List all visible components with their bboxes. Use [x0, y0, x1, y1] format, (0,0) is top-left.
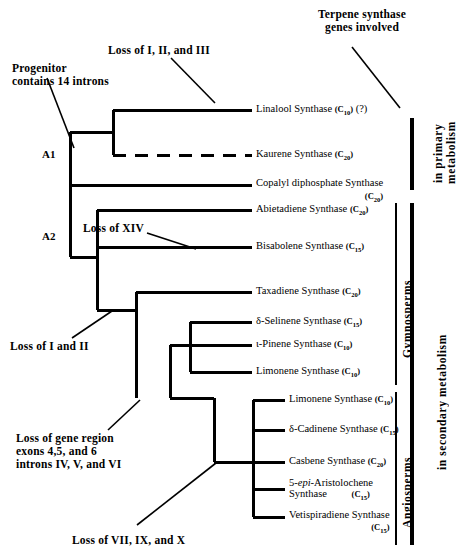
leaf-label-aristolochene: 5-epi-Aristolochene Synthase (C15) — [289, 478, 373, 503]
leaf-carbon: (C20) — [350, 204, 368, 214]
right-header: Terpene synthase genes involved — [296, 8, 428, 34]
leader-loss-i-ii — [72, 311, 112, 338]
leader-loss-gene-region — [108, 400, 140, 430]
bracket-label-secondary-metabolism: in secondary metabolism — [436, 310, 448, 470]
bracket-label-gymnosperms: Gymnosperms — [401, 238, 413, 358]
leaf-carbon: (C15) — [344, 316, 362, 326]
leaf-name-line2: Synthase — [289, 488, 327, 499]
leaf-label-casbene: Casbene Synthase (C20) — [289, 455, 386, 470]
annotation-loss-gene-region: Loss of gene region exons 4,5, and 6 int… — [16, 432, 121, 471]
node-label-a1: A1 — [42, 148, 55, 160]
bracket-label-primary-line1: in primary — [432, 123, 444, 182]
leaf-name: Bisabolene Synthase — [256, 240, 343, 251]
leaf-label-a-pinene: ι-Pinene Synthase (C10) — [256, 338, 352, 353]
annotation-progenitor: Progenitor contains 14 introns — [12, 62, 109, 88]
leaf-name: Limonene Synthase — [256, 365, 339, 376]
annotation-loss-xiv: Loss of XIV — [83, 222, 144, 235]
leaf-carbon: (C15) — [371, 522, 389, 532]
leaf-name: Vetispiradiene Synthase — [289, 509, 390, 520]
leader-loss-i-ii-iii — [171, 58, 215, 103]
leaf-name: Copalyl diphosphate Synthase — [256, 177, 383, 188]
leaf-name: δ-Selinene Synthase — [256, 315, 341, 326]
leaf-carbon: (C15) — [346, 241, 364, 251]
leaf-carbon: (C20) — [365, 191, 383, 201]
leaf-name: Linalool Synthase — [256, 103, 332, 114]
leaf-name-aristolochene: 5-epi-Aristolochene — [289, 477, 373, 488]
annotation-loss-gene-region-line2: exons 4,5, and 6 — [16, 445, 97, 457]
leaf-label-vetispiradiene: Vetispiradiene Synthase (C15) — [289, 510, 390, 536]
leaf-carbon: (C10) — [334, 339, 352, 349]
leaf-label-linalool: Linalool Synthase (C10) (?) — [256, 103, 367, 118]
leaf-carbon: (C15) — [380, 424, 398, 434]
leaf-carbon: (C10) — [375, 394, 393, 404]
diagram-canvas: Terpene synthase genes involved Progenit… — [0, 0, 472, 560]
leader-loss-vii-ix-x — [137, 463, 216, 525]
bracket-label-angiosperms: Angiosperms — [401, 408, 413, 528]
leader-progenitor — [47, 78, 74, 148]
leaf-label-copalyl: Copalyl diphosphate Synthase (C20) — [256, 178, 383, 205]
bracket-label-primary-metabolism: in primary metabolism — [432, 98, 458, 208]
leaf-carbon: (C10) — [342, 366, 360, 376]
leaf-carbon: (C10) — [335, 104, 353, 114]
leaf-carbon: (C15) — [330, 489, 370, 499]
leaf-carbon: (C20) — [368, 456, 386, 466]
leader-terpene-header — [352, 47, 400, 108]
leaf-label-taxadiene: Taxadiene Synthase (C20) — [256, 285, 360, 300]
leaf-name-italic-part: epi — [298, 477, 311, 488]
leaf-carbon: (C20) — [342, 286, 360, 296]
leaf-name: Abietadiene Synthase — [256, 203, 347, 214]
bracket-label-primary-line2: metabolism — [445, 122, 457, 185]
leaf-name: Limonene Synthase — [289, 393, 372, 404]
leaf-name: Taxadiene Synthase — [256, 285, 340, 296]
annotation-loss-i-ii: Loss of I and II — [10, 340, 89, 353]
leaf-carbon: (C20) — [335, 149, 353, 159]
right-header-line2: genes involved — [325, 21, 399, 33]
leaf-label-kaurene: Kaurene Synthase (C20) — [256, 148, 353, 163]
leaf-suffix: (?) — [356, 103, 368, 114]
annotation-loss-gene-region-line1: Loss of gene region — [16, 432, 114, 444]
annotation-progenitor-line2: contains 14 introns — [12, 75, 109, 87]
leaf-label-d-cadinene: δ-Cadinene Synthase (C15) — [289, 423, 399, 438]
annotation-loss-i-ii-iii: Loss of I, II, and III — [108, 44, 210, 57]
leaf-name: Kaurene Synthase — [256, 148, 332, 159]
leaf-name: ι-Pinene Synthase — [256, 338, 331, 349]
right-header-line1: Terpene synthase — [318, 8, 406, 20]
leaf-label-limonene-gymno: Limonene Synthase (C10) — [256, 365, 360, 380]
leaf-label-abietadiene: Abietadiene Synthase (C20) — [256, 203, 368, 218]
leaf-label-limonene-angio: Limonene Synthase (C10) — [289, 393, 393, 408]
leaf-name: δ-Cadinene Synthase — [289, 423, 378, 434]
leaf-label-bisabolene: Bisabolene Synthase (C15) — [256, 240, 364, 255]
leaf-label-d-selinene: δ-Selinene Synthase (C15) — [256, 315, 362, 330]
leaf-name: Casbene Synthase — [289, 455, 365, 466]
node-label-a2: A2 — [42, 230, 55, 242]
annotation-loss-vii-ix-x: Loss of VII, IX, and X — [72, 534, 185, 547]
annotation-loss-gene-region-line3: introns IV, V, and VI — [16, 458, 121, 470]
annotation-progenitor-line1: Progenitor — [12, 62, 67, 74]
